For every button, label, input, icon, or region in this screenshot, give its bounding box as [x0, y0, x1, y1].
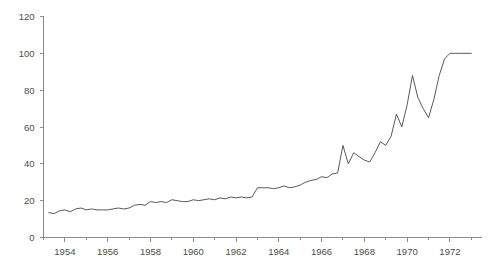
data-series [49, 53, 471, 213]
chart-figure: 020406080100120 195419561958196019621964… [0, 0, 497, 274]
y-axis: 020406080100120 [19, 11, 44, 243]
y-tick-label: 120 [19, 11, 35, 22]
x-tick-label: 1966 [311, 246, 332, 257]
y-tick-label: 0 [29, 232, 34, 243]
x-tick-label: 1972 [439, 246, 460, 257]
y-tick-label: 40 [24, 158, 35, 169]
y-tick-label: 100 [19, 48, 35, 59]
y-tick-label: 60 [24, 122, 35, 133]
x-tick-label: 1964 [268, 246, 289, 257]
line-chart: 020406080100120 195419561958196019621964… [0, 0, 497, 274]
y-tick-label: 80 [24, 85, 35, 96]
x-tick-label: 1956 [97, 246, 118, 257]
x-tick-label: 1954 [54, 246, 75, 257]
series-line [49, 53, 471, 213]
x-tick-label: 1958 [140, 246, 161, 257]
y-tick-label: 20 [24, 195, 35, 206]
x-tick-label: 1968 [354, 246, 375, 257]
x-tick-label: 1970 [397, 246, 418, 257]
x-axis: 1954195619581960196219641966196819701972 [44, 238, 483, 257]
x-tick-label: 1962 [225, 246, 246, 257]
x-tick-label: 1960 [183, 246, 204, 257]
